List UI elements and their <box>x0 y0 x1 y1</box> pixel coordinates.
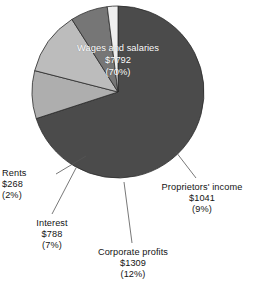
slice-label-percent: (70%) <box>58 66 178 78</box>
leader-line-corporate <box>124 182 132 243</box>
slice-label-value: $7792 <box>58 54 178 66</box>
slice-label-percent: (12%) <box>84 269 182 280</box>
slice-label-value: $1041 <box>148 193 256 204</box>
slice-label-corporate-profits: Corporate profits $1309 (12%) <box>84 247 182 280</box>
leader-line-proprietor <box>176 152 196 178</box>
slice-label-name: Wages and salaries <box>58 42 178 54</box>
slice-label-interest: Interest $788 (7%) <box>16 218 88 251</box>
slice-label-value: $788 <box>16 229 88 240</box>
pie-chart: Wages and salaries $7792 (70%) Rents $26… <box>0 0 256 294</box>
slice-label-name: Proprietors' income <box>148 182 256 193</box>
slice-label-name: Rents <box>2 168 60 179</box>
slice-label-name: Corporate profits <box>84 247 182 258</box>
slice-label-percent: (9%) <box>148 204 256 215</box>
slice-label-rents: Rents $268 (2%) <box>2 168 60 201</box>
slice-label-name: Interest <box>16 218 88 229</box>
pie-slices <box>32 6 204 178</box>
slice-label-proprietors-income: Proprietors' income $1041 (9%) <box>148 182 256 215</box>
slice-label-value: $1309 <box>84 258 182 269</box>
slice-label-percent: (2%) <box>2 190 60 201</box>
slice-label-wages-and-salaries: Wages and salaries $7792 (70%) <box>58 42 178 77</box>
slice-label-percent: (7%) <box>16 240 88 251</box>
slice-label-value: $268 <box>2 179 60 190</box>
